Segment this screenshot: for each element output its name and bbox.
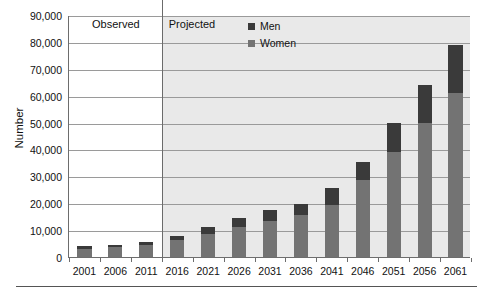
bar-segment-men [356, 162, 370, 181]
y-axis-tick-label: 70,000 [30, 64, 62, 76]
y-axis-tick-labels: 010,00020,00030,00040,00050,00060,00070,… [4, 12, 66, 258]
x-axis-tick-mark [131, 258, 132, 262]
bar-segment-women [139, 245, 153, 257]
x-axis-tick-mark [224, 258, 225, 262]
observed-region-background [69, 16, 162, 257]
x-axis-tick-label: 2061 [444, 265, 467, 277]
gridline [69, 124, 470, 125]
bar-segment-women [294, 215, 308, 257]
bar-segment-women [108, 247, 122, 257]
bar-segment-women [448, 93, 462, 257]
legend-swatch-icon [248, 23, 255, 30]
bar-segment-men [108, 245, 122, 247]
chart-legend: MenWomen [248, 20, 296, 54]
bar-segment-men [325, 188, 339, 204]
x-axis-tick-mark [69, 258, 70, 262]
bar-segment-men [77, 246, 91, 248]
bar-segment-women [325, 205, 339, 257]
bar-segment-men [232, 218, 246, 228]
bar-segment-men [418, 85, 432, 123]
x-axis-tick-label: 2031 [258, 265, 281, 277]
x-axis-tick-mark [193, 258, 194, 262]
y-axis-tick-label: 30,000 [30, 171, 62, 183]
x-axis-tick-label: 2011 [135, 265, 158, 277]
gridline [69, 177, 470, 178]
bar-segment-women [356, 180, 370, 257]
legend-item: Men [248, 20, 296, 32]
bar-segment-men [170, 236, 184, 241]
x-axis-tick-label: 2051 [382, 265, 405, 277]
x-axis-tick-mark [440, 258, 441, 262]
x-axis-tick-mark [378, 258, 379, 262]
bar-segment-men [201, 227, 215, 234]
y-axis-tick-label: 20,000 [30, 198, 62, 210]
y-axis-tick-label: 60,000 [30, 91, 62, 103]
x-axis-tick-mark [316, 258, 317, 262]
bar-segment-men [294, 204, 308, 215]
gridline [69, 16, 470, 17]
y-axis-tick-label: 50,000 [30, 118, 62, 130]
observed-region-label: Observed [92, 18, 140, 30]
bar-group [139, 242, 153, 257]
bar-segment-men [263, 210, 277, 221]
legend-item: Women [248, 37, 296, 49]
bar-group [325, 188, 339, 257]
x-axis-tick-mark [471, 258, 472, 262]
bar-segment-women [418, 123, 432, 257]
x-axis-tick-mark [100, 258, 101, 262]
bar-group [170, 236, 184, 257]
y-axis-tick-label: 80,000 [30, 37, 62, 49]
bar-group [418, 85, 432, 257]
bar-group [387, 123, 401, 257]
y-axis-tick-label: 90,000 [30, 10, 62, 22]
bar-segment-women [201, 234, 215, 257]
bar-group [356, 162, 370, 257]
x-axis-tick-label: 2016 [166, 265, 189, 277]
bar-group [294, 204, 308, 257]
bottom-rule [16, 286, 477, 287]
bar-segment-men [387, 123, 401, 153]
legend-label: Men [260, 20, 280, 32]
projected-region-label: Projected [169, 18, 215, 30]
y-axis-tick-label: 0 [56, 252, 62, 264]
bar-group [77, 246, 91, 257]
gridline [69, 204, 470, 205]
x-axis-tick-mark [347, 258, 348, 262]
y-axis-tick-label: 40,000 [30, 144, 62, 156]
gridline [69, 97, 470, 98]
bar-segment-women [232, 227, 246, 257]
x-axis-tick-mark [255, 258, 256, 262]
x-axis-tick-label: 2026 [227, 265, 250, 277]
bar-segment-men [448, 45, 462, 93]
legend-label: Women [260, 37, 296, 49]
x-axis-tick-label: 2056 [413, 265, 436, 277]
y-axis-tick-label: 10,000 [30, 225, 62, 237]
x-axis-tick-mark [162, 258, 163, 262]
chart-figure: Number 010,00020,00030,00040,00050,00060… [0, 0, 485, 295]
gridline [69, 70, 470, 71]
bar-segment-women [263, 221, 277, 257]
x-axis-tick-label: 2046 [351, 265, 374, 277]
x-axis-tick-label: 2041 [320, 265, 343, 277]
bar-group [232, 218, 246, 257]
legend-swatch-icon [248, 40, 255, 47]
x-axis-tick-label: 2021 [196, 265, 219, 277]
bar-segment-men [139, 242, 153, 245]
gridline [69, 150, 470, 151]
x-axis-tick-label: 2006 [104, 265, 127, 277]
bar-group [201, 227, 215, 257]
bar-group [263, 210, 277, 257]
x-axis-tick-mark [409, 258, 410, 262]
bar-group [108, 245, 122, 257]
bar-segment-women [170, 240, 184, 257]
bar-segment-women [77, 249, 91, 257]
bar-segment-women [387, 152, 401, 257]
observed-projected-divider [162, 0, 163, 257]
x-axis-tick-mark [285, 258, 286, 262]
x-axis-tick-label: 2036 [289, 265, 312, 277]
x-axis-tick-label: 2001 [73, 265, 96, 277]
bar-group [448, 45, 462, 257]
